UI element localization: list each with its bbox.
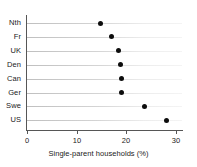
data-point-den — [118, 62, 123, 67]
x-tick-label-10: 10 — [65, 136, 89, 145]
y-axis-line — [26, 15, 27, 131]
x-axis-title: Single-parent households (%) — [0, 149, 197, 158]
x-tick-label-0: 0 — [15, 136, 39, 145]
data-point-nth — [98, 21, 103, 26]
x-tick-mark-20 — [126, 131, 127, 134]
gridline — [27, 23, 182, 24]
data-point-swe — [142, 104, 147, 109]
dot-plot-figure: NthFrUKDenCanGerSweUS 0102030 Single-par… — [0, 0, 197, 167]
data-point-fr — [109, 34, 114, 39]
gridline — [27, 120, 182, 121]
y-axis-label-den: Den — [0, 61, 21, 69]
gridline — [27, 37, 182, 38]
data-point-uk — [116, 48, 121, 53]
gridline — [27, 79, 182, 80]
gridline — [27, 51, 182, 52]
y-axis-label-ger: Ger — [0, 89, 21, 97]
data-point-ger — [119, 90, 124, 95]
x-tick-mark-10 — [77, 131, 78, 134]
y-axis-label-uk: UK — [0, 47, 21, 55]
x-tick-mark-30 — [176, 131, 177, 134]
gridline — [27, 106, 182, 107]
y-axis-label-us: US — [0, 116, 21, 124]
y-axis-label-nth: Nth — [0, 19, 21, 27]
gridline — [27, 93, 182, 94]
x-tick-label-20: 20 — [114, 136, 138, 145]
data-point-us — [164, 118, 169, 123]
y-axis-label-can: Can — [0, 75, 21, 83]
y-axis-label-fr: Fr — [0, 33, 21, 41]
x-tick-mark-0 — [27, 131, 28, 134]
y-axis-label-swe: Swe — [0, 102, 21, 110]
data-point-can — [119, 76, 124, 81]
x-axis-line — [26, 130, 183, 131]
gridline — [27, 65, 182, 66]
x-tick-label-30: 30 — [164, 136, 188, 145]
